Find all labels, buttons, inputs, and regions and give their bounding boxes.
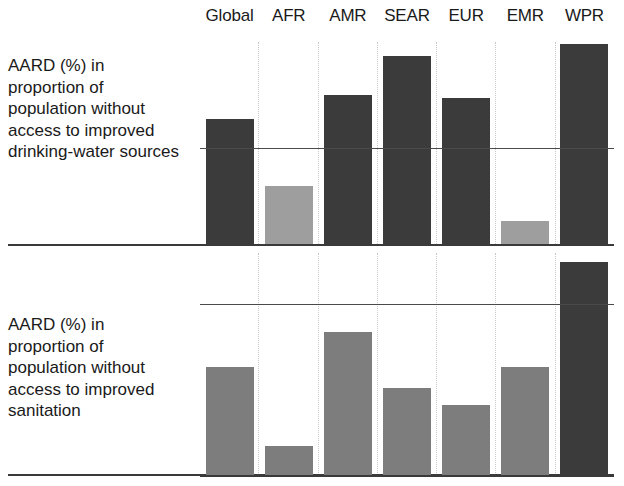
bar-cell-emr [496, 253, 555, 475]
bar-cell-sear [377, 253, 436, 475]
column-header-global: Global [200, 4, 259, 28]
reference-line-drinking-water [200, 148, 614, 149]
bar-cell-amr [318, 253, 377, 475]
bars-drinking-water [200, 42, 614, 244]
column-header-afr: AFR [259, 4, 318, 28]
panel-label-sanitation: AARD (%) in proportion of population wit… [8, 314, 184, 422]
bar-afr [265, 446, 313, 475]
column-header-emr: EMR [496, 4, 555, 28]
bar-sear [383, 56, 431, 244]
panel-divider-drinking-water [8, 244, 614, 246]
bar-amr [324, 95, 372, 244]
bar-emr [501, 221, 549, 244]
bar-cell-emr [496, 42, 555, 244]
bar-amr [324, 332, 372, 475]
bar-wpr [560, 262, 608, 475]
column-header-eur: EUR [437, 4, 496, 28]
bar-cell-wpr [555, 42, 614, 244]
bar-cell-afr [259, 42, 318, 244]
bar-wpr [560, 44, 608, 244]
panel-label-drinking-water: AARD (%) in proportion of population wit… [8, 55, 184, 163]
panel-sanitation: AARD (%) in proportion of population wit… [0, 252, 624, 478]
bar-afr [265, 186, 313, 244]
bar-cell-amr [318, 42, 377, 244]
bar-cell-eur [437, 42, 496, 244]
bar-sear [383, 388, 431, 475]
column-header-sear: SEAR [377, 4, 436, 28]
bar-cell-sear [377, 42, 436, 244]
bar-global [206, 367, 254, 475]
bar-cell-afr [259, 253, 318, 475]
chart-figure: Global AFR AMR SEAR EUR EMR WPR AARD (%)… [0, 0, 624, 486]
plot-area-drinking-water [200, 42, 614, 246]
reference-line-sanitation [200, 304, 614, 305]
bar-emr [501, 367, 549, 475]
column-header-amr: AMR [318, 4, 377, 28]
bar-cell-eur [437, 253, 496, 475]
column-header-wpr: WPR [555, 4, 614, 28]
bar-eur [442, 98, 490, 244]
panel-drinking-water: AARD (%) in proportion of population wit… [0, 30, 624, 246]
bar-cell-global [200, 253, 259, 475]
bar-cell-wpr [555, 253, 614, 475]
bar-cell-global [200, 42, 259, 244]
plot-area-sanitation [200, 253, 614, 477]
bar-eur [442, 405, 490, 475]
bar-global [206, 119, 254, 244]
category-header-row: Global AFR AMR SEAR EUR EMR WPR [200, 4, 614, 28]
bars-sanitation [200, 253, 614, 475]
